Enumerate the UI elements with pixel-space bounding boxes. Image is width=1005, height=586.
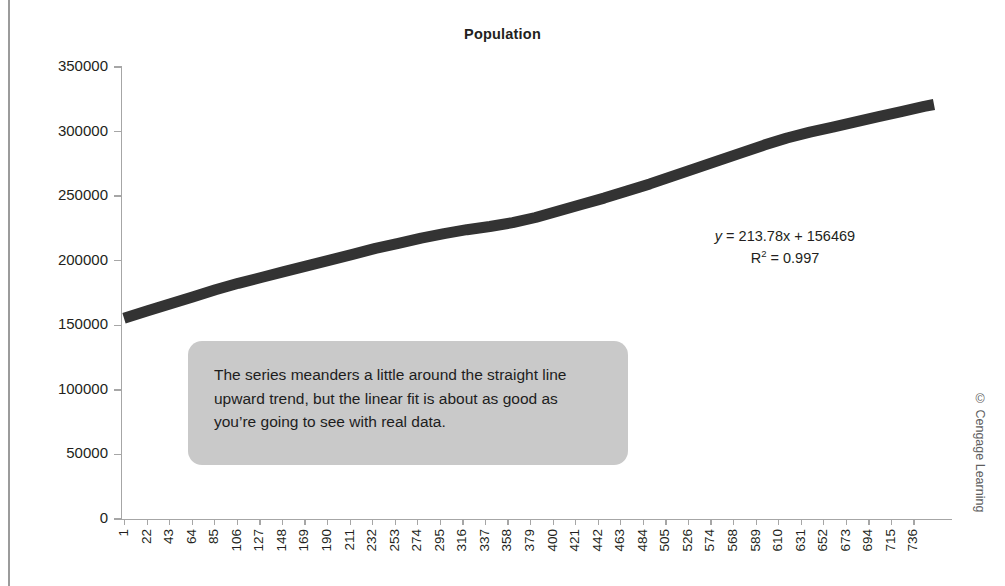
callout-text: The series meanders a little around the … bbox=[214, 363, 602, 434]
population-series-line bbox=[124, 105, 934, 319]
chart-figure: Population 05000010000015000020000025000… bbox=[0, 0, 1005, 586]
callout-box: The series meanders a little around the … bbox=[188, 341, 628, 465]
equation-y-variable: y bbox=[715, 228, 722, 244]
r-squared-value: = 0.997 bbox=[766, 250, 819, 266]
trendline-equation-line: y = 213.78x + 156469 bbox=[690, 226, 880, 247]
copyright-credit: © Cengage Learning bbox=[973, 392, 987, 512]
trendline-equation: y = 213.78x + 156469 R2 = 0.997 bbox=[690, 226, 880, 269]
equation-body: = 213.78x + 156469 bbox=[722, 228, 855, 244]
r-squared-line: R2 = 0.997 bbox=[690, 247, 880, 269]
series-plot bbox=[0, 0, 1005, 586]
r-squared-symbol: R bbox=[751, 250, 761, 266]
